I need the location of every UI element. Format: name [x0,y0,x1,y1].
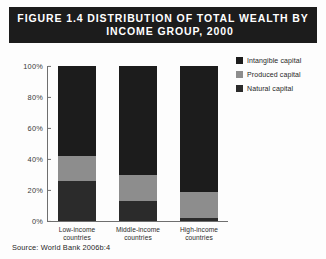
segment-intangible-capital [180,66,218,192]
legend-label: Natural capital [247,85,293,92]
segment-natural-capital [180,218,218,221]
chart-axes: 100% 80% 60% 40% 20% 0% Low-income count… [47,66,228,222]
segment-intangible-capital [119,66,157,175]
x-label-line-1: Low-income [59,226,96,233]
x-axis-label-middle-income: Middle-income countries [116,226,160,242]
figure-source-note: Source: World Bank 2006b:4 [12,243,110,252]
y-axis-tick-80: 80% [28,93,48,102]
legend-swatch-icon [236,85,243,92]
y-axis-tick-label: 0% [32,217,43,226]
figure-title-banner: FIGURE 1.4 DISTRIBUTION OF TOTAL WEALTH … [9,7,317,43]
x-label-line-2: countries [124,234,152,241]
bar-series-container: Low-income countries Middle-income count… [48,66,228,221]
stacked-bar[interactable] [119,66,157,221]
x-axis-label-low-income: Low-income countries [59,226,96,242]
x-label-line-1: High-income [180,226,218,233]
x-label-line-2: countries [185,234,213,241]
x-label-line-1: Middle-income [116,226,160,233]
y-axis-tick-60: 60% [28,124,48,133]
y-axis-tick-40: 40% [28,155,48,164]
y-axis-tick-label: 40% [28,155,43,164]
stacked-bar[interactable] [180,66,218,221]
x-axis-label-high-income: High-income countries [180,226,218,242]
y-axis-tick-label: 80% [28,93,43,102]
figure-title-line-1: FIGURE 1.4 DISTRIBUTION OF TOTAL WEALTH … [17,12,308,25]
segment-produced-capital [58,156,96,181]
segment-produced-capital [180,192,218,218]
segment-natural-capital [119,201,157,221]
y-axis-tick-0: 0% [32,217,48,226]
segment-produced-capital [119,175,157,201]
chart-legend: Intangible capital Produced capital Natu… [236,57,324,99]
x-label-line-2: countries [63,234,91,241]
y-axis-tick-100: 100% [23,62,48,71]
legend-item-natural-capital[interactable]: Natural capital [236,85,324,92]
y-axis-tick-label: 100% [23,62,43,71]
bar-group-middle-income: Middle-income countries [119,66,157,221]
legend-swatch-icon [236,57,243,64]
legend-label: Intangible capital [247,57,301,64]
y-axis-tick-label: 20% [28,186,43,195]
stacked-bar[interactable] [58,66,96,221]
y-axis-tick-20: 20% [28,186,48,195]
figure-container: FIGURE 1.4 DISTRIBUTION OF TOTAL WEALTH … [0,0,326,259]
bar-group-low-income: Low-income countries [58,66,96,221]
y-axis-tick-label: 60% [28,124,43,133]
legend-item-produced-capital[interactable]: Produced capital [236,71,324,78]
figure-title-line-2: INCOME GROUP, 2000 [92,25,233,38]
legend-item-intangible-capital[interactable]: Intangible capital [236,57,324,64]
bar-group-high-income: High-income countries [180,66,218,221]
legend-swatch-icon [236,71,243,78]
legend-label: Produced capital [247,71,301,78]
segment-natural-capital [58,181,96,221]
segment-intangible-capital [58,66,96,156]
